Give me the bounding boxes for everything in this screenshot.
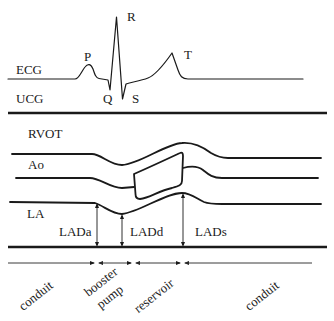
ucg-label: UCG [16, 91, 43, 106]
q-wave-label: Q [103, 91, 113, 106]
phase-timeline: conduit booster pump reservoir conduit [8, 261, 312, 316]
phase-conduit-late: conduit [242, 277, 282, 313]
ladd-label: LADd [130, 224, 164, 239]
lads-label: LADs [195, 224, 227, 239]
ao-la-boundary-right [183, 167, 318, 178]
p-wave-label: P [84, 49, 91, 64]
arrow-right-icon [90, 261, 95, 265]
ecg-label: ECG [16, 62, 42, 77]
ao-la-boundary-left [16, 178, 134, 188]
lada-label: LADa [59, 224, 92, 239]
r-wave-label: R [127, 9, 136, 24]
rvot-label: RVOT [28, 126, 62, 141]
la-posterior-wall [10, 193, 321, 214]
s-wave-label: S [132, 91, 139, 106]
echo-structures: RVOT Ao LA [8, 126, 327, 247]
left-atrial-function-diagram: ECG P R T Q S UCG RVOT Ao LA LADa [0, 0, 334, 321]
ecg-section: ECG P R T Q S [8, 9, 303, 106]
lada-arrow-icon [95, 203, 99, 247]
ladd-arrow-icon [120, 214, 124, 247]
phase-reservoir: reservoir [131, 275, 177, 316]
lads-arrow-icon [181, 193, 185, 247]
ecg-trace [8, 17, 303, 99]
arrow-right-icon [127, 261, 132, 265]
rvot-ao-boundary [12, 143, 321, 165]
arrow-right-icon [176, 261, 181, 265]
ao-label: Ao [28, 157, 44, 172]
t-wave-label: T [184, 47, 192, 62]
la-label: LA [27, 206, 45, 221]
phase-conduit-early: conduit [16, 277, 56, 313]
